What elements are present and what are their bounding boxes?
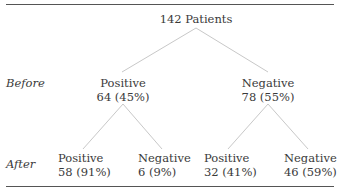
- before-positive-node: Positive 64 (45%): [97, 76, 150, 104]
- node-label: Negative: [138, 151, 191, 165]
- edge-root-positive: [122, 28, 196, 72]
- edge-neg-neg: [268, 104, 308, 149]
- node-label: Negative: [242, 76, 295, 90]
- edge-pos-neg: [123, 104, 162, 149]
- node-label: Negative: [284, 151, 337, 165]
- node-value: 78 (55%): [242, 90, 295, 104]
- node-value: 64 (45%): [97, 90, 150, 104]
- edge-pos-pos: [83, 104, 123, 149]
- edge-neg-pos: [228, 104, 268, 149]
- root-node: 142 Patients: [160, 12, 233, 26]
- row-label-before: Before: [6, 76, 45, 90]
- node-value: 46 (59%): [284, 165, 337, 179]
- row-label-after: After: [6, 157, 35, 171]
- after-negative-1-node: Negative 6 (9%): [138, 151, 191, 179]
- node-label: Positive: [204, 151, 257, 165]
- before-negative-node: Negative 78 (55%): [242, 76, 295, 104]
- after-negative-2-node: Negative 46 (59%): [284, 151, 337, 179]
- node-value: 58 (91%): [58, 165, 111, 179]
- node-value: 6 (9%): [138, 165, 191, 179]
- after-positive-2-node: Positive 32 (41%): [204, 151, 257, 179]
- node-value: 32 (41%): [204, 165, 257, 179]
- node-label: Positive: [97, 76, 150, 90]
- bottom-rule: [6, 186, 334, 187]
- edge-root-negative: [196, 28, 268, 72]
- node-label: Positive: [58, 151, 111, 165]
- after-positive-1-node: Positive 58 (91%): [58, 151, 111, 179]
